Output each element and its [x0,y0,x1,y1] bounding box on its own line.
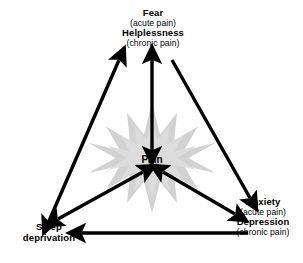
edge-fear-sleep [49,60,119,221]
node-label-anxiety-depression: Anxiety (acute pain) Depression (chronic… [223,197,303,238]
pain-cycle-diagram: Fear (acute pain) Helplessness (chronic … [0,0,303,263]
node-label-pain: Pain [122,154,182,165]
sleep-label-line-2: deprivation [6,233,92,244]
node-label-fear-helplessness: Fear (acute pain) Helplessness (chronic … [93,8,213,49]
anxiety-label-line-4: (chronic pain) [223,228,303,238]
fear-label-line-4: (chronic pain) [93,39,213,49]
node-label-sleep-deprivation: Sleep deprivation [6,222,92,243]
